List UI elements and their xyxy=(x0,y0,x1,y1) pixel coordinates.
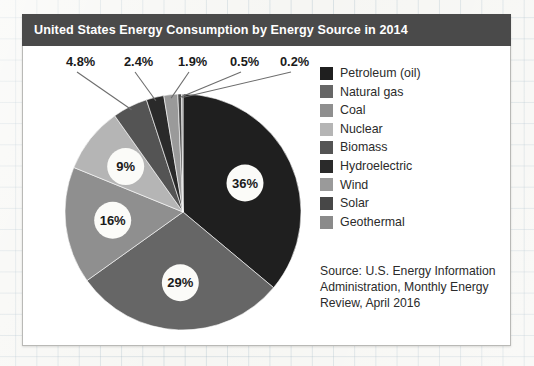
legend-item: Coal xyxy=(320,101,500,120)
slice-percent-label: 29% xyxy=(167,275,193,290)
slice-percent-label: 36% xyxy=(232,176,258,191)
legend-item: Geothermal xyxy=(320,213,500,232)
legend-item: Nuclear xyxy=(320,120,500,139)
legend-swatch-icon xyxy=(320,67,333,80)
callout-labels-group: 4.8%2.4%1.9%0.5%0.2% xyxy=(66,54,310,69)
callout-leader-line xyxy=(182,72,291,98)
legend-swatch-icon xyxy=(320,123,333,136)
legend-swatch-icon xyxy=(320,216,333,229)
legend-item-label: Nuclear xyxy=(340,123,383,135)
callout-percent-label: 1.9% xyxy=(178,54,208,69)
legend-swatch-icon xyxy=(320,104,333,117)
legend-item: Petroleum (oil) xyxy=(320,64,500,83)
callout-leader-line xyxy=(135,72,156,101)
legend-item-label: Solar xyxy=(340,197,369,209)
source-note: Source: U.S. Energy Information Administ… xyxy=(320,263,500,312)
callout-leader-line xyxy=(180,72,241,98)
legend-item-label: Wind xyxy=(340,179,368,191)
legend-swatch-icon xyxy=(320,85,333,98)
legend-item-label: Coal xyxy=(340,104,365,116)
page-title: United States Energy Consumption by Ener… xyxy=(22,23,408,37)
legend-item: Biomass xyxy=(320,138,500,157)
legend-swatch-icon xyxy=(320,197,333,210)
source-line-1: Source: U.S. Energy Information xyxy=(320,263,500,279)
legend-item: Hydroelectric xyxy=(320,157,500,176)
chart-title-bar: United States Energy Consumption by Ener… xyxy=(22,14,511,46)
source-line-2: Administration, Monthly Energy xyxy=(320,279,500,295)
legend-item: Solar xyxy=(320,194,500,213)
legend-item-label: Hydroelectric xyxy=(340,160,412,172)
legend-item: Natural gas xyxy=(320,83,500,102)
callout-leader-line xyxy=(77,72,132,110)
chart-figure: United States Energy Consumption by Ener… xyxy=(22,14,511,346)
callout-percent-label: 0.2% xyxy=(280,54,310,69)
legend-item-label: Biomass xyxy=(340,141,388,153)
legend-item-label: Geothermal xyxy=(340,216,405,228)
legend-item-label: Petroleum (oil) xyxy=(340,67,421,79)
legend-swatch-icon xyxy=(320,160,333,173)
chart-legend: Petroleum (oil)Natural gasCoalNuclearBio… xyxy=(320,64,500,231)
callout-percent-label: 0.5% xyxy=(230,54,260,69)
source-line-3: Review, April 2016 xyxy=(320,295,500,311)
legend-item: Wind xyxy=(320,176,500,195)
legend-item-label: Natural gas xyxy=(340,86,403,98)
callout-percent-label: 2.4% xyxy=(124,54,154,69)
slice-percent-label: 9% xyxy=(116,159,135,174)
slice-percent-label: 16% xyxy=(100,213,126,228)
legend-swatch-icon xyxy=(320,178,333,191)
callout-percent-label: 4.8% xyxy=(66,54,96,69)
legend-swatch-icon xyxy=(320,141,333,154)
